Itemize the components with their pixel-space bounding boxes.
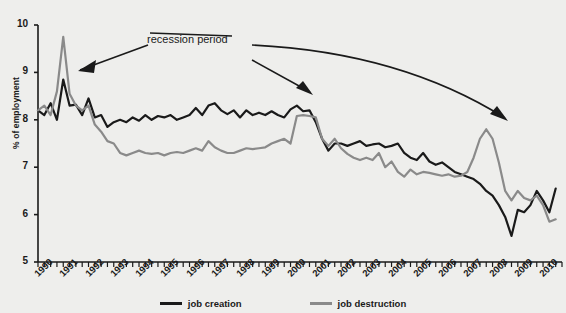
axes (34, 25, 562, 267)
chart-container: % of employment 5678910 1990199119921993… (0, 0, 566, 313)
data-series-layer (38, 37, 556, 236)
arrow-2008-head (490, 106, 508, 121)
arrow-2001-head (296, 81, 313, 95)
series-line-job-destruction (38, 37, 556, 222)
legend-item: job destruction (310, 298, 407, 309)
arrow-1991-head (78, 60, 96, 73)
legend-swatch-job-destruction (310, 302, 332, 305)
plot-area (0, 0, 566, 313)
legend-label-job-creation: job creation (188, 298, 242, 309)
recession-period-label: recession period (147, 33, 228, 45)
legend-item: job creation (160, 298, 242, 309)
legend-label-job-destruction: job destruction (338, 298, 407, 309)
legend-swatch-job-creation (160, 302, 182, 305)
chart-legend: job creation job destruction (0, 298, 566, 309)
